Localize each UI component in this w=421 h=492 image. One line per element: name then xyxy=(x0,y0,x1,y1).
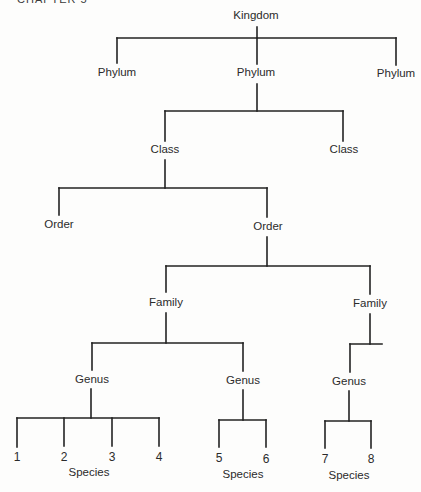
node-phylum-left: Phylum xyxy=(98,67,136,79)
node-species-1: 1 xyxy=(14,451,21,463)
node-class-right: Class xyxy=(330,144,359,156)
node-family-right: Family xyxy=(353,298,387,310)
node-species-4: 4 xyxy=(156,451,163,463)
node-species-5: 5 xyxy=(216,452,223,464)
node-species-2: 2 xyxy=(61,451,68,463)
node-species-6: 6 xyxy=(263,453,270,465)
node-species-label-2: Species xyxy=(223,469,264,481)
node-family-left: Family xyxy=(149,297,183,309)
node-species-3: 3 xyxy=(109,451,116,463)
node-order-right: Order xyxy=(253,221,282,233)
taxonomy-tree-connectors xyxy=(0,0,421,492)
node-species-label-3: Species xyxy=(329,470,370,482)
node-species-7: 7 xyxy=(322,453,329,465)
page: CHAPTER 5 KingdomPhylumPhylumPhylumClass… xyxy=(0,0,421,492)
node-species-8: 8 xyxy=(368,453,375,465)
node-species-label-1: Species xyxy=(69,467,110,479)
node-genus-3: Genus xyxy=(332,376,366,388)
node-phylum-right: Phylum xyxy=(377,68,415,80)
node-genus-1: Genus xyxy=(75,374,109,386)
node-class-left: Class xyxy=(151,144,180,156)
node-phylum-center: Phylum xyxy=(237,67,275,79)
node-order-left: Order xyxy=(44,219,73,231)
node-genus-2: Genus xyxy=(226,375,260,387)
node-kingdom: Kingdom xyxy=(233,10,278,22)
